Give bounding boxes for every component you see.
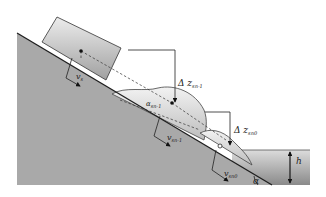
dz-n1-label: Δ zsn-1 xyxy=(177,78,203,89)
landslide-diagram: Δ zsn-1 Δ zsn0 h vs vsn-1 vsn0 α αsn-1 xyxy=(0,0,326,197)
h-label: h xyxy=(296,156,302,166)
center-of-mass-n1 xyxy=(170,101,174,105)
dz-n0-label: Δ zsn0 xyxy=(233,125,258,136)
center-of-mass-block xyxy=(79,49,83,53)
alpha-label: α xyxy=(253,176,259,186)
center-of-mass-n0 xyxy=(218,144,222,148)
